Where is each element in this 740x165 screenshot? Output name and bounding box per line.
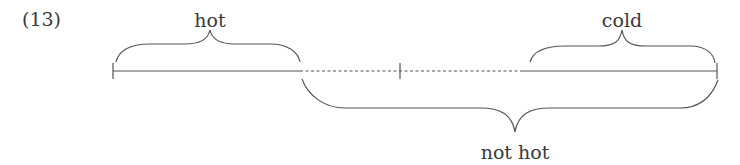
brace-not-hot: [302, 79, 718, 132]
brace-cold: [530, 30, 715, 63]
scale-diagram: [0, 0, 740, 165]
brace-hot: [116, 30, 300, 62]
